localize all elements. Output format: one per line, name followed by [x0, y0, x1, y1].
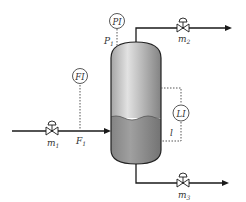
- arrow-right-icon: [104, 128, 111, 134]
- actuator-icon: [179, 173, 187, 177]
- actuator-icon: [179, 18, 187, 22]
- valve-m2-label: m2: [178, 34, 191, 45]
- p1-label: P1: [103, 36, 114, 47]
- valve-body-icon: [177, 24, 183, 32]
- separator-vessel: [108, 38, 164, 168]
- valve-body-icon: [183, 24, 189, 32]
- valve-m3-label: m3: [178, 190, 191, 201]
- feed-inlet-line: [12, 128, 111, 134]
- flow-indicator[interactable]: FI F1: [73, 69, 88, 148]
- fi-tag: FI: [74, 72, 85, 82]
- valve-m3[interactable]: m3: [177, 173, 191, 201]
- valve-m1[interactable]: m1: [46, 121, 59, 149]
- level-label: l: [170, 128, 173, 138]
- vapor-space: [108, 38, 164, 118]
- f1-label: F1: [75, 136, 86, 147]
- valve-body-icon: [183, 179, 189, 187]
- actuator-icon: [48, 121, 56, 125]
- arrow-right-icon: [225, 25, 232, 31]
- process-diagram: m1 m2 m3 PI P1 FI F1 LI l: [0, 0, 246, 202]
- level-indicator[interactable]: LI l: [161, 88, 189, 141]
- signal-line-li-top: [161, 88, 181, 104]
- valve-body-icon: [46, 127, 52, 135]
- pressure-indicator[interactable]: PI P1: [103, 14, 125, 48]
- valve-body-icon: [52, 127, 58, 135]
- li-tag: LI: [175, 109, 186, 119]
- valve-m1-label: m1: [47, 138, 59, 149]
- arrow-right-icon: [222, 180, 229, 186]
- valve-body-icon: [177, 179, 183, 187]
- pi-tag: PI: [111, 17, 122, 27]
- valve-m2[interactable]: m2: [177, 18, 191, 45]
